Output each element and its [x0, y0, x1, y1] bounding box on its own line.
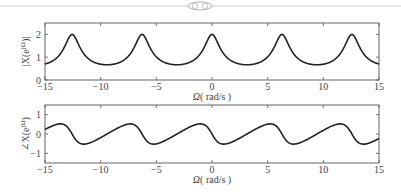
- x-tick-label: −15: [37, 164, 53, 175]
- y-axis-label: ∠X(ejΩ): [19, 117, 32, 151]
- x-axis-label: Ω( rad/s ): [193, 91, 231, 103]
- header-ornament: [0, 2, 401, 10]
- x-tick-label: 5: [265, 164, 270, 175]
- x-tick-label: −5: [151, 164, 162, 175]
- magnitude-plot: −15−10−5051015012Ω( rad/s )|X(ejΩ)|: [19, 23, 384, 103]
- y-tick-label: −1: [30, 148, 41, 159]
- data-line: [45, 34, 379, 64]
- y-tick-label: 0: [36, 75, 41, 86]
- y-tick-label: 0: [36, 129, 41, 140]
- x-tick-label: 5: [265, 81, 270, 92]
- axes-box: [45, 23, 379, 80]
- x-tick-label: −5: [151, 81, 162, 92]
- y-tick-label: 1: [36, 109, 41, 120]
- x-tick-label: 15: [374, 164, 384, 175]
- phase-plot: −15−10−5051015−101Ω( rad/s )∠X(ejΩ): [19, 105, 384, 186]
- y-tick-label: 1: [36, 52, 41, 63]
- x-tick-label: −10: [93, 81, 109, 92]
- x-tick-label: −10: [93, 164, 109, 175]
- y-axis-label: |X(ejΩ)|: [19, 37, 32, 67]
- x-tick-label: 15: [374, 81, 384, 92]
- x-tick-label: 10: [318, 164, 328, 175]
- chart-figure: −15−10−5051015012Ω( rad/s )|X(ejΩ)|−15−1…: [0, 0, 401, 195]
- x-axis-label: Ω( rad/s ): [193, 174, 231, 186]
- x-tick-label: 10: [318, 81, 328, 92]
- y-tick-label: 2: [36, 29, 41, 40]
- data-line: [45, 124, 379, 144]
